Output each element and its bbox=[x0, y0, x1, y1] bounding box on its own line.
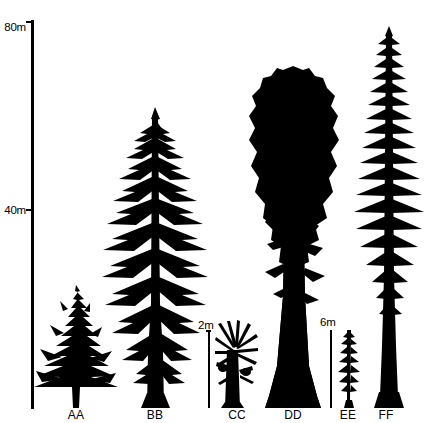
inset-scale-bar-6m bbox=[330, 330, 332, 408]
inset-scale-bar-2m bbox=[208, 330, 210, 408]
caption-AA: AA bbox=[68, 409, 84, 421]
inset-scale-label-2m: 2m bbox=[198, 320, 214, 332]
tree-height-comparison-figure: 80m 40m AA bbox=[0, 0, 433, 423]
tree-silhouette-FF bbox=[352, 26, 430, 408]
caption-EE: EE bbox=[340, 409, 356, 421]
axis-tick-80m bbox=[26, 21, 32, 23]
axis-tick-40m bbox=[26, 209, 32, 211]
axis-label-80m: 80m bbox=[2, 22, 26, 34]
inset-scale-label-6m: 6m bbox=[320, 317, 336, 329]
caption-FF: FF bbox=[378, 409, 393, 421]
axis-label-40m: 40m bbox=[2, 205, 26, 217]
tree-silhouette-DD bbox=[243, 66, 343, 408]
tree-silhouette-BB bbox=[100, 103, 210, 408]
caption-BB: BB bbox=[147, 409, 163, 421]
caption-CC: CC bbox=[228, 409, 246, 421]
caption-DD: DD bbox=[284, 409, 302, 421]
